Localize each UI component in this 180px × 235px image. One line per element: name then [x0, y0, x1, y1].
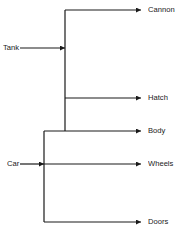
source-label-car: Car — [7, 159, 19, 169]
target-label-body: Body — [148, 126, 165, 136]
target-label-hatch: Hatch — [148, 93, 168, 103]
target-label-cannon: Cannon — [148, 5, 175, 15]
target-label-doors: Doors — [148, 217, 168, 227]
target-label-wheels: Wheels — [148, 159, 173, 169]
source-label-tank: Tank — [3, 43, 19, 53]
composition-diagram — [0, 0, 180, 235]
